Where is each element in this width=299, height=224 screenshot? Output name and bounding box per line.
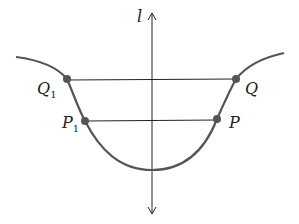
label-p1-sub: 1 (73, 123, 79, 134)
label-q1-base: Q (37, 79, 50, 98)
chord-p1-p (85, 120, 217, 121)
curve (16, 53, 284, 170)
point-p1 (81, 117, 89, 125)
axis-label: l (137, 9, 142, 25)
point-p (213, 115, 221, 123)
label-p: P (229, 115, 240, 131)
label-p1: P1 (62, 115, 79, 134)
label-q1-sub: 1 (50, 89, 56, 100)
label-q: Q (245, 81, 258, 97)
point-q (232, 75, 240, 83)
chord-q1-q (67, 79, 236, 80)
diagram-canvas (0, 0, 299, 224)
vertical-axis (148, 13, 156, 214)
label-q1: Q1 (37, 81, 57, 100)
label-p1-base: P (62, 113, 73, 132)
point-q1 (63, 75, 71, 83)
